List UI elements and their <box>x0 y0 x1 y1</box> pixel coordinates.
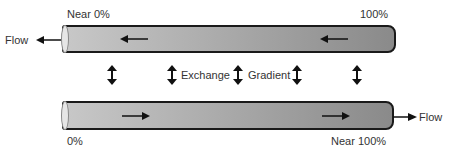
top-tube-opening <box>61 25 69 53</box>
bottom-tube-right-label: Near 100% <box>331 135 386 147</box>
top-tube-arrow-left-icon <box>120 33 150 45</box>
double-arrow-icon <box>292 65 302 85</box>
top-tube-left-label: Near 0% <box>67 8 110 20</box>
bottom-flow-arrow-icon <box>393 111 417 123</box>
top-flow-label: Flow <box>5 34 28 46</box>
top-tube-arrow-left-icon <box>320 33 350 45</box>
bottom-tube-arrow-right-icon <box>320 110 350 122</box>
bottom-flow-label: Flow <box>419 111 442 123</box>
bottom-tube-left-label: 0% <box>67 135 83 147</box>
double-arrow-icon <box>107 65 117 85</box>
top-tube-right-label: 100% <box>360 8 388 20</box>
double-arrow-icon <box>167 65 177 85</box>
gradient-label: Gradient <box>248 69 290 81</box>
bottom-tube-arrow-right-icon <box>120 110 150 122</box>
double-arrow-icon <box>233 65 243 85</box>
exchange-label: Exchange <box>181 69 230 81</box>
bottom-tube-opening <box>61 101 69 130</box>
double-arrow-icon <box>352 65 362 85</box>
